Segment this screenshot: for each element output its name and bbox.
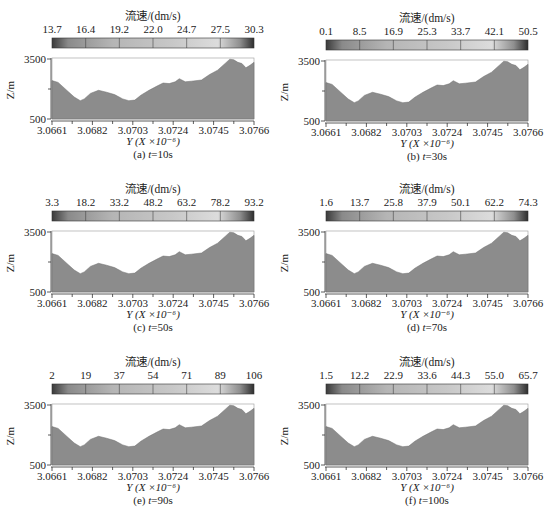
y-axis-label: Z/m [278,253,290,272]
y-tick-top: 3500 [298,226,321,238]
x-tick-label: 3.0745 [472,470,503,482]
colorbar-tick-label: 62.2 [485,196,504,208]
colorbar-tick-label: 19 [80,369,92,381]
colorbar-tick-label: 0.1 [319,25,333,37]
colorbar-tick-label: 3.3 [45,196,59,208]
chart-panel-c: 流速/(dm/s) 3.318.233.248.263.278.293.2 35… [0,173,278,346]
x-tick-label: 3.0766 [239,470,270,482]
colorbar-tick-label: 27.5 [211,23,231,35]
x-tick-label: 3.0661 [311,470,341,482]
colorbar-tick-label: 8.5 [353,25,367,37]
colorbar-title: 流速/(dm/s) [399,182,454,196]
colorbar-tick-label: 33.6 [417,369,437,381]
x-tick-label: 3.0745 [472,297,503,309]
chart-panel-e: 流速/(dm/s) 21937547189106 3500 500 Z/m 3.… [0,346,278,519]
colorbar-title: 流速/(dm/s) [125,182,180,196]
colorbar-tick-label: 63.2 [177,196,196,208]
colorbar-tick-label: 25.8 [384,196,404,208]
colorbar-tick-labels: 21937547189106 [49,369,263,381]
colorbar-tick-labels: 3.318.233.248.263.278.293.2 [45,196,264,208]
colorbar-title: 流速/(dm/s) [399,355,454,369]
colorbar-tick-label: 30.3 [244,23,264,35]
colorbar-tick-label: 106 [246,369,263,381]
panel-caption: (e) t=90s [133,494,173,507]
chart-panel-f: 流速/(dm/s) 1.512.222.933.644.355.065.7 35… [274,346,552,519]
x-tick-label: 3.0661 [37,124,67,136]
x-tick-label: 3.0661 [37,297,67,309]
colorbar-tick-label: 33.2 [110,196,129,208]
x-axis-label: Y (X ×10⁻⁶) [400,137,454,150]
colorbar-tick-label: 1.5 [319,369,333,381]
x-tick-label: 3.0682 [77,470,107,482]
colorbar-tick-labels: 13.716.419.222.024.727.530.3 [42,23,264,35]
colorbar-tick-label: 13.7 [42,23,62,35]
colorbar-tick-labels: 0.18.516.925.333.742.150.5 [319,25,538,37]
x-tick-label: 3.0661 [311,297,341,309]
colorbar-title: 流速/(dm/s) [125,355,180,369]
x-tick-label: 3.0682 [77,297,107,309]
x-tick-label: 3.0682 [77,124,107,136]
x-tick-label: 3.0682 [351,126,381,138]
colorbar-title: 流速/(dm/s) [125,9,180,23]
x-tick-label: 3.0661 [37,470,67,482]
colorbar-tick-label: 74.3 [518,196,538,208]
x-tick-label: 3.0661 [311,126,341,138]
x-tick-label: 3.0766 [513,297,544,309]
colorbar-title: 流速/(dm/s) [399,11,454,25]
x-tick-label: 3.0766 [513,126,544,138]
x-tick-label: 3.0745 [472,126,503,138]
y-axis-label: Z/m [4,80,16,99]
y-axis-label: Z/m [278,82,290,101]
x-axis-label: Y (X ×10⁻⁶) [126,135,180,148]
colorbar-tick-label: 22.0 [143,23,163,35]
colorbar-tick-labels: 1.613.725.837.950.162.274.3 [319,196,538,208]
colorbar-tick-label: 50.5 [518,25,538,37]
colorbar-tick-label: 48.2 [143,196,162,208]
y-tick-top: 3500 [24,226,47,238]
chart-svg: 流速/(dm/s) 13.716.419.222.024.727.530.3 3… [0,0,278,173]
x-tick-label: 3.0682 [351,470,381,482]
panel-caption: (d) t=70s [407,321,447,334]
chart-svg: 流速/(dm/s) 3.318.233.248.263.278.293.2 35… [0,173,278,346]
x-axis-label: Y (X ×10⁻⁶) [126,308,180,321]
x-tick-label: 3.0682 [351,297,381,309]
x-tick-label: 3.0766 [239,297,270,309]
colorbar-tick-labels: 1.512.222.933.644.355.065.7 [319,369,538,381]
chart-svg: 流速/(dm/s) 1.512.222.933.644.355.065.7 35… [274,346,552,519]
y-tick-top: 3500 [24,53,47,65]
x-tick-label: 3.0745 [198,470,229,482]
chart-panel-a: 流速/(dm/s) 13.716.419.222.024.727.530.3 3… [0,0,278,173]
y-axis-label: Z/m [4,426,16,445]
x-tick-label: 3.0745 [198,297,229,309]
colorbar-tick-label: 16.4 [76,23,96,35]
x-axis-label: Y (X ×10⁻⁶) [400,308,454,321]
panel-caption: (a) t=10s [133,148,173,161]
colorbar-tick-label: 33.7 [451,25,471,37]
chart-svg: 流速/(dm/s) 0.18.516.925.333.742.150.5 350… [274,2,552,175]
colorbar-tick-label: 37.9 [417,196,437,208]
colorbar-tick-label: 89 [215,369,227,381]
chart-svg: 流速/(dm/s) 1.613.725.837.950.162.274.3 35… [274,173,552,346]
y-axis-label: Z/m [278,426,290,445]
x-axis-label: Y (X ×10⁻⁶) [126,481,180,494]
colorbar-tick-label: 50.1 [451,196,470,208]
y-axis-label: Z/m [4,253,16,272]
colorbar-tick-label: 71 [181,369,192,381]
y-tick-top: 3500 [24,399,47,411]
x-tick-label: 3.0766 [239,124,270,136]
colorbar-tick-label: 22.9 [384,369,404,381]
colorbar-tick-label: 54 [148,369,160,381]
y-tick-top: 3500 [298,55,321,67]
panel-caption: (b) t=30s [407,150,447,163]
colorbar-tick-label: 55.0 [485,369,505,381]
chart-svg: 流速/(dm/s) 21937547189106 3500 500 Z/m 3.… [0,346,278,519]
colorbar-tick-label: 37 [114,369,126,381]
x-axis-label: Y (X ×10⁻⁶) [400,481,454,494]
colorbar-tick-label: 19.2 [110,23,129,35]
chart-panel-d: 流速/(dm/s) 1.613.725.837.950.162.274.3 35… [274,173,552,346]
colorbar-tick-label: 12.2 [350,369,369,381]
chart-panel-b: 流速/(dm/s) 0.18.516.925.333.742.150.5 350… [274,2,552,175]
x-tick-label: 3.0766 [513,470,544,482]
colorbar-tick-label: 24.7 [177,23,197,35]
colorbar-tick-label: 78.2 [211,196,230,208]
